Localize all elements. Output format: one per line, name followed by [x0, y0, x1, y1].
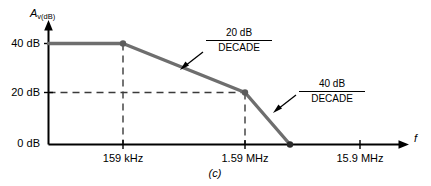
annotation-20db-per-decade: 20 dB DECADE — [206, 27, 272, 53]
y-tick-label-40db: 40 dB — [0, 38, 40, 49]
x-axis-title: f — [414, 133, 417, 144]
annotation-20db-denominator: DECADE — [206, 41, 272, 54]
leader-line-20db-decade — [180, 52, 203, 70]
x-tick-label-159mhz-high: 15.9 MHz — [320, 153, 400, 164]
breakpoint-marker-159mhz — [242, 89, 248, 95]
breakpoint-marker-159khz — [120, 40, 126, 46]
x-tick-label-159khz: 159 kHz — [83, 153, 163, 164]
annotation-40db-per-decade: 40 dB DECADE — [299, 78, 365, 104]
figure-caption: (c) — [190, 168, 240, 179]
y-axis-title-subscript: v(dB) — [37, 12, 55, 21]
x-tick-label-159mhz: 1.59 MHz — [204, 153, 286, 164]
bode-plot-figure: Av(dB) 40 dB 20 dB 0 dB 159 kHz 1.59 MHz… — [0, 0, 431, 186]
curve-endpoint-marker — [287, 141, 293, 147]
annotation-40db-numerator: 40 dB — [299, 78, 365, 92]
x-axis — [49, 140, 410, 149]
annotation-20db-numerator: 20 dB — [206, 27, 272, 41]
y-tick-label-0db: 0 dB — [0, 138, 40, 149]
y-tick-label-20db: 20 dB — [0, 87, 40, 98]
annotation-40db-denominator: DECADE — [299, 92, 365, 105]
y-axis-title: Av(dB) — [30, 8, 55, 19]
y-axis — [44, 20, 53, 145]
leader-line-40db-decade — [273, 95, 296, 113]
response-curve — [49, 44, 291, 145]
